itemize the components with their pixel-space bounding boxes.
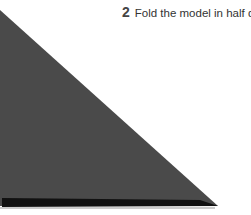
paper-triangle bbox=[0, 10, 218, 206]
folded-paper-diagram bbox=[0, 0, 251, 215]
